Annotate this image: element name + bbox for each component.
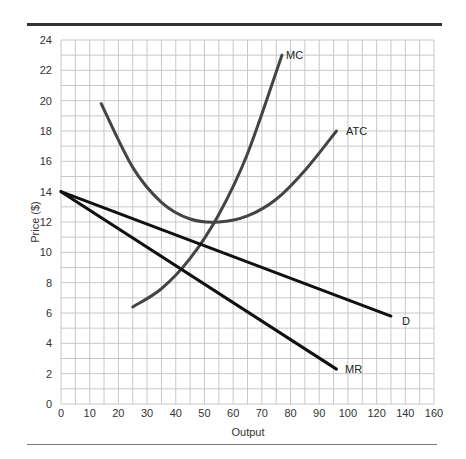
tick-labels: 0102030405060708090100120140160024681012…	[40, 34, 443, 419]
x-tick-label: 10	[84, 407, 96, 419]
x-tick-label: 50	[198, 407, 210, 419]
x-tick-label: 80	[284, 407, 296, 419]
grid	[61, 40, 434, 404]
curves	[61, 55, 391, 369]
y-tick-label: 4	[46, 337, 52, 349]
x-tick-label: 160	[425, 407, 443, 419]
d-label: D	[402, 315, 410, 327]
x-tick-label: 30	[141, 407, 153, 419]
y-tick-label: 10	[40, 246, 52, 258]
y-tick-label: 8	[46, 277, 52, 289]
atc-label: ATC	[346, 125, 367, 137]
y-tick-label: 22	[40, 64, 52, 76]
y-tick-label: 0	[46, 398, 52, 410]
y-tick-label: 16	[40, 155, 52, 167]
x-tick-label: 40	[170, 407, 182, 419]
y-tick-label: 6	[46, 307, 52, 319]
mc-label: MC	[286, 49, 303, 61]
x-tick-label: 120	[367, 407, 385, 419]
x-tick-label: 90	[313, 407, 325, 419]
mr-label: MR	[345, 363, 362, 375]
y-tick-label: 14	[40, 186, 52, 198]
y-tick-label: 2	[46, 368, 52, 380]
x-tick-label: 60	[227, 407, 239, 419]
x-tick-label: 100	[339, 407, 357, 419]
mc-curve	[133, 55, 282, 307]
x-tick-label: 70	[256, 407, 268, 419]
x-tick-label: 140	[396, 407, 414, 419]
x-tick-label: 0	[58, 407, 64, 419]
y-tick-label: 18	[40, 125, 52, 137]
bottom-rule	[27, 444, 437, 445]
y-tick-label: 20	[40, 95, 52, 107]
y-tick-label: 24	[40, 34, 52, 46]
y-axis-label: Price ($)	[29, 201, 41, 243]
x-axis-label: Output	[231, 426, 264, 438]
x-tick-label: 20	[112, 407, 124, 419]
chart: 0102030405060708090100120140160024681012…	[0, 0, 466, 459]
y-tick-label: 12	[40, 216, 52, 228]
